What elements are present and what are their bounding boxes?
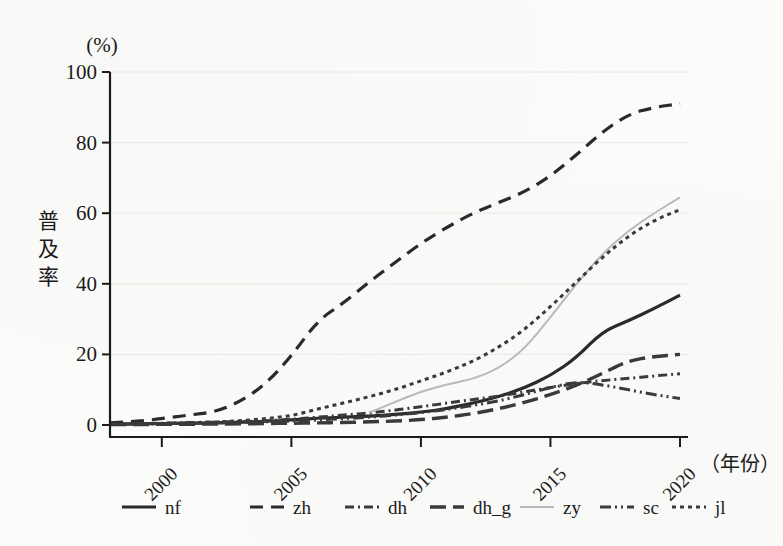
legend-label-nf[interactable]: nf (165, 497, 182, 518)
legend-label-sc[interactable]: sc (643, 497, 659, 518)
gridlines (110, 72, 688, 354)
legend-label-dh[interactable]: dh (388, 497, 408, 518)
y-tick-label-60: 60 (76, 201, 97, 225)
series-group (110, 104, 680, 425)
y-tick-label-80: 80 (76, 131, 97, 155)
y-tick-label-20: 20 (76, 342, 97, 366)
x-tick-label-2020: 2020 (658, 463, 700, 505)
x-axis-ticks: 20002005201020152020 (140, 437, 700, 505)
y-axis-title: 普及率 (38, 209, 59, 289)
y-axis-title-char-2: 率 (38, 265, 59, 289)
line-chart-canvas: 020406080100(%)20002005201020152020（年份）普… (0, 0, 783, 546)
x-axis-label: （年份） (700, 453, 780, 475)
series-line-jl (110, 210, 680, 425)
y-tick-label-100: 100 (66, 60, 98, 84)
legend-label-jl[interactable]: jl (714, 497, 726, 518)
series-line-nf (110, 295, 680, 424)
y-axis-unit-label: (%) (86, 33, 117, 57)
y-axis-title-char-1: 及 (38, 237, 59, 261)
legend-label-zy[interactable]: zy (563, 497, 581, 518)
y-tick-label-0: 0 (87, 413, 98, 437)
y-axis-title-char-0: 普 (38, 209, 59, 233)
chart-figure: 020406080100(%)20002005201020152020（年份）普… (0, 0, 783, 546)
series-line-zy (369, 197, 680, 412)
legend: nfzhdhdh_gzyscjl (122, 497, 726, 518)
y-axis-ticks: 020406080100 (66, 60, 111, 437)
legend-label-zh[interactable]: zh (293, 497, 311, 518)
y-tick-label-40: 40 (76, 272, 97, 296)
legend-label-dh_g[interactable]: dh_g (473, 497, 512, 518)
